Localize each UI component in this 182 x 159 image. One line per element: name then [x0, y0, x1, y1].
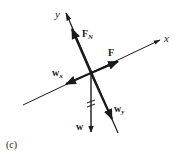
- weight-vector: [87, 73, 95, 132]
- weight-x-label: wx: [52, 67, 63, 80]
- free-body-diagram: y x FN F wx wy w (c): [0, 0, 182, 159]
- applied-force-label: F: [108, 47, 114, 58]
- weight-y-label: wy: [114, 103, 125, 116]
- weight-label: w: [76, 121, 84, 132]
- x-axis-label: x: [163, 32, 169, 44]
- weight-x-component-vector: [66, 73, 91, 84]
- normal-force-label: FN: [82, 28, 94, 41]
- weight-y-component-vector: [91, 73, 112, 119]
- panel-label: (c): [6, 139, 17, 151]
- applied-force-vector: [91, 62, 118, 74]
- y-axis-label: y: [54, 8, 60, 20]
